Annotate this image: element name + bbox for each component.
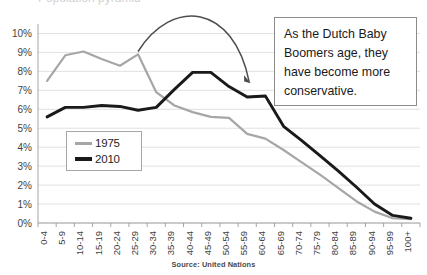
x-axis-tick-label: 80-84 bbox=[329, 231, 340, 255]
source-caption-text: Source: United Nations bbox=[172, 260, 256, 269]
y-axis-tick-label: 9% bbox=[18, 47, 33, 58]
y-axis-tick-label: 2% bbox=[18, 180, 33, 191]
x-axis-tick-label: 10-14 bbox=[74, 231, 85, 255]
y-axis-tick-label: 8% bbox=[18, 66, 33, 77]
y-axis-tick-label: 7% bbox=[18, 85, 33, 96]
x-axis-tick-label: 60-64 bbox=[256, 231, 267, 255]
x-axis-tick-label: 70-74 bbox=[293, 231, 304, 255]
x-axis-tick-label: 35-39 bbox=[165, 231, 176, 255]
x-axis-tick-label: 5-9 bbox=[56, 231, 67, 245]
x-axis-tick-label: 20-24 bbox=[111, 231, 122, 255]
y-axis-tick-label: 3% bbox=[18, 161, 33, 172]
chart-legend: 1975 2010 bbox=[66, 131, 142, 171]
x-axis-tick-label: 40-44 bbox=[184, 231, 195, 255]
x-axis-tick-label: 85-89 bbox=[347, 231, 358, 255]
x-axis-tick-label: 75-79 bbox=[311, 231, 322, 255]
x-axis-tick-label: 95-99 bbox=[384, 231, 395, 255]
legend-swatch-2010 bbox=[75, 157, 92, 161]
y-axis-tick-label: 4% bbox=[18, 142, 33, 153]
x-axis-tick-label: 100+ bbox=[402, 231, 413, 253]
callout-text: As the Dutch Baby Boomers age, they have… bbox=[284, 27, 390, 98]
x-axis-tick-label: 25-29 bbox=[129, 231, 140, 255]
y-axis-tick-label: 0% bbox=[18, 218, 33, 229]
legend-label-1975: 1975 bbox=[95, 137, 120, 149]
y-axis-tick-label: 1% bbox=[18, 199, 33, 210]
callout-textbox: As the Dutch Baby Boomers age, they have… bbox=[274, 17, 417, 106]
legend-item-1975: 1975 bbox=[67, 135, 141, 151]
x-axis-tick-label: 15-19 bbox=[93, 231, 104, 255]
legend-item-2010: 2010 bbox=[67, 151, 141, 167]
x-axis-tick-label: 30-34 bbox=[147, 231, 158, 255]
x-axis-tick-label: 90-94 bbox=[366, 231, 377, 255]
legend-label-2010: 2010 bbox=[95, 153, 120, 165]
legend-swatch-1975 bbox=[75, 142, 92, 145]
source-caption: Source: United Nations bbox=[0, 260, 427, 269]
x-axis-tick-label: 65-69 bbox=[275, 231, 286, 255]
y-axis-tick-label: 5% bbox=[18, 123, 33, 134]
y-axis-tick-label: 6% bbox=[18, 104, 33, 115]
chart-figure: Population pyramid 0%1%2%3%4%5%6%7%8%9%1… bbox=[0, 0, 427, 275]
x-axis-tick-label: 45-49 bbox=[202, 231, 213, 255]
x-axis-tick-label: 50-54 bbox=[220, 231, 231, 255]
x-axis-tick-label: 55-59 bbox=[238, 231, 249, 255]
x-axis-tick-label: 0-4 bbox=[38, 231, 49, 245]
y-axis-tick-label: 10% bbox=[12, 28, 32, 39]
